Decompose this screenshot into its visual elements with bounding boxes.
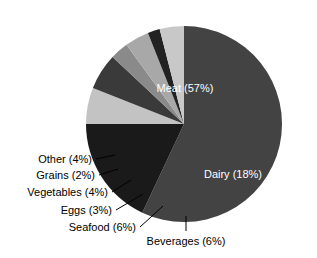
pie-slices-group: [86, 26, 282, 222]
slice-label-other: Other (4%): [38, 153, 92, 165]
slice-label-grains: Grains (2%): [36, 169, 95, 181]
pie-chart-canvas: Meat (57%)Dairy (18%)Beverages (6%)Seafo…: [0, 0, 317, 258]
slice-label-eggs: Eggs (3%): [61, 204, 112, 216]
slice-label-seafood: Seafood (6%): [69, 221, 136, 233]
slice-label-vegetables: Vegetables (4%): [27, 186, 108, 198]
slice-label-beverages: Beverages (6%): [147, 235, 226, 247]
pie-chart-figure: Meat (57%)Dairy (18%)Beverages (6%)Seafo…: [0, 0, 317, 258]
slice-label-meat: Meat (57%): [157, 82, 214, 94]
slice-label-dairy: Dairy (18%): [204, 168, 262, 180]
